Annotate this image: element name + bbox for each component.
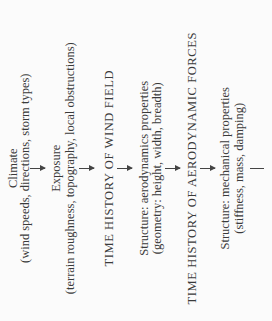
wind-field-title: TIME HISTORY OF WIND FIELD — [103, 69, 116, 266]
arrow-aero-forces-to-mech-props — [200, 168, 215, 169]
mech-props-title: Structure: mechanical properties — [219, 87, 232, 249]
arrow-climate-to-exposure — [30, 168, 45, 169]
exposure-detail: (terrain roughness, topography, local ob… — [64, 42, 77, 294]
arrow-aero-props-to-aero-forces — [165, 168, 180, 169]
arrow-mech-props-continues — [250, 168, 264, 169]
arrow-wind-field-to-aero-props — [117, 168, 132, 169]
exposure-title: Exposure — [50, 144, 63, 191]
arrow-exposure-to-wind-field — [79, 168, 94, 169]
aero-props-title: Structure: aerodynamics properties — [138, 80, 151, 255]
aero-props-detail: (geometry: height, width, breadth) — [151, 82, 164, 254]
mech-props-detail: (stiffness, mass, damping) — [233, 102, 246, 233]
aero-forces-title: TIME HISTORY OF AERODYNAMIC FORCES — [186, 31, 199, 304]
